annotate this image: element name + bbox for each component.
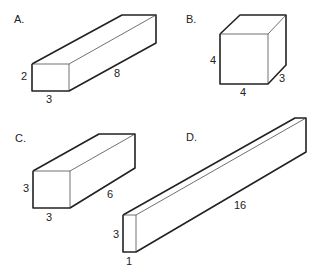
figure-label: A. [14, 13, 24, 25]
dimension-length: 8 [114, 67, 120, 79]
figure-label: B. [186, 13, 196, 25]
figure-label: C. [15, 132, 26, 144]
prism-b: B.443 [186, 13, 286, 98]
front-face-edge [220, 34, 268, 84]
figure-label: D. [186, 131, 197, 143]
dimension-height: 2 [21, 70, 27, 82]
ridge-edge [70, 134, 135, 171]
dimension-length: 16 [234, 199, 246, 211]
figure-canvas: A.238B.443C.336D.3116 [0, 0, 318, 280]
prism-outline [123, 118, 306, 252]
dimension-height: 3 [23, 182, 29, 194]
dimension-height: 3 [113, 228, 119, 240]
dimension-width: 3 [46, 211, 52, 223]
dimension-width: 4 [240, 86, 246, 98]
prism-a: A.238 [14, 13, 156, 105]
prism-c: C.336 [15, 132, 135, 223]
dimension-length: 6 [107, 188, 113, 200]
ridge-edge [268, 15, 286, 34]
front-face-edge [33, 171, 70, 208]
dimension-depth: 3 [279, 72, 285, 84]
dimension-height: 4 [210, 54, 216, 66]
ridge-edge [69, 15, 156, 64]
front-face-edge [123, 215, 136, 252]
dimension-width: 1 [126, 255, 132, 267]
front-face-edge [32, 64, 69, 91]
prism-d: D.3116 [113, 118, 306, 267]
dimension-width: 3 [46, 93, 52, 105]
prism-outline [32, 15, 156, 91]
